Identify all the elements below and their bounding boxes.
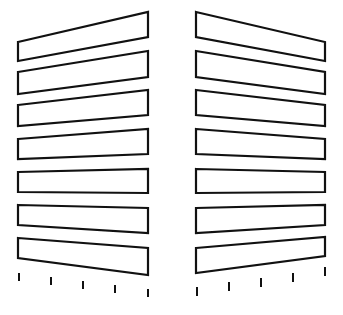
right-bar-4	[196, 129, 325, 159]
left-bar-7	[18, 238, 148, 275]
left-bar-stack	[18, 12, 148, 275]
right-bar-6	[196, 205, 325, 233]
figure-svg	[0, 0, 343, 315]
right-bar-stack	[196, 12, 325, 273]
right-bar-5	[196, 169, 325, 193]
right-bar-3	[196, 90, 325, 126]
right-bar-7	[196, 237, 325, 273]
left-bar-3	[18, 90, 148, 126]
left-tick-marks	[19, 273, 148, 297]
illusion-figure	[0, 0, 343, 315]
left-bar-4	[18, 129, 148, 159]
left-bar-5	[18, 169, 148, 193]
left-bar-6	[18, 205, 148, 233]
